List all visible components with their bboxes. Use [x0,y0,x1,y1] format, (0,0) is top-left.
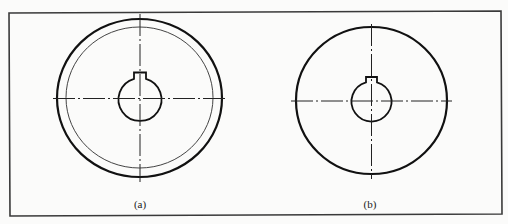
view-b: (b) [291,24,452,211]
view-a: (a) [53,14,227,211]
technical-drawing: (a) (b) [0,0,508,224]
view-a-label: (a) [134,198,147,211]
view-b-label: (b) [364,198,377,211]
